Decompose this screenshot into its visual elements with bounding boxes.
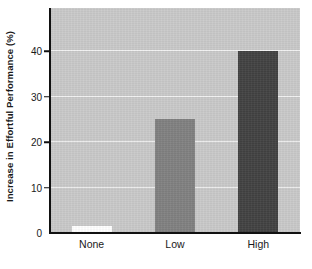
bar-low: [155, 119, 195, 233]
y-tick-mark-30: [44, 96, 50, 98]
bar-chart-figure: Increase in Effortful Performance (%) 01…: [0, 0, 312, 269]
y-axis-label-text: Increase in Effortful Performance (%): [5, 31, 16, 202]
y-tick-label-30: 30: [31, 91, 42, 102]
y-axis-tick-labels: 010203040: [20, 0, 46, 269]
y-tick-label-10: 10: [31, 182, 42, 193]
y-tick-mark-20: [44, 141, 50, 143]
x-axis-tick-labels: NoneLowHigh: [50, 238, 300, 260]
x-tick-label-high: High: [248, 238, 270, 250]
x-axis-line: [49, 232, 301, 234]
y-tick-label-0: 0: [36, 228, 42, 239]
y-tick-mark-40: [44, 50, 50, 52]
y-tick-label-20: 20: [31, 137, 42, 148]
y-axis-label: Increase in Effortful Performance (%): [0, 0, 20, 233]
x-tick-label-low: Low: [165, 238, 184, 250]
x-tick-label-none: None: [79, 238, 104, 250]
bar-high: [238, 51, 278, 233]
plot-area: [50, 8, 300, 233]
y-axis-line: [49, 8, 51, 234]
y-tick-label-40: 40: [31, 46, 42, 57]
y-tick-mark-10: [44, 187, 50, 189]
